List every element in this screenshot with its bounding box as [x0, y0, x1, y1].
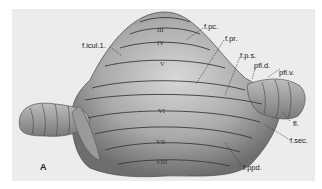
label-f-pr: f.pr.: [225, 35, 238, 43]
label-fl: fl.: [293, 120, 299, 128]
label-f-pc: f.pc.: [204, 23, 218, 31]
lobule-iii-label: III: [157, 27, 164, 34]
lobule-v-label: V: [160, 61, 165, 68]
label-pfl-d: pfl.d.: [254, 62, 270, 70]
label-f-sec: f.sec.: [290, 137, 308, 145]
label-f-icul: f.icul.1.: [82, 42, 106, 50]
label-pfl-v: pfl.v.: [279, 69, 294, 77]
lobule-vi-label: VI: [158, 108, 165, 115]
lobule-viii-label: VIII: [156, 159, 167, 166]
label-f-ppd: f.ppd.: [243, 164, 262, 172]
lobule-vii-label: VII: [156, 139, 165, 146]
label-f-ps: f.p.s.: [240, 52, 256, 60]
lobule-iv-label: IV: [157, 40, 164, 47]
panel-label: A: [40, 163, 47, 172]
